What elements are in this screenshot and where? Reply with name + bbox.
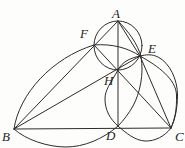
segment-EC <box>140 56 171 128</box>
point-label-B: B <box>2 130 10 143</box>
segment-BE-altitude <box>14 56 140 129</box>
segment-AB <box>14 21 118 129</box>
point-label-E: E <box>148 42 156 55</box>
geometry-diagram: A B C D E F H <box>0 0 185 148</box>
arc-BFEC <box>14 45 177 129</box>
point-label-D: D <box>106 129 115 142</box>
point-label-F: F <box>80 27 88 40</box>
point-label-H: H <box>104 74 113 87</box>
geometry-figure <box>0 0 185 148</box>
segment-AE <box>118 21 140 56</box>
point-label-C: C <box>175 130 184 143</box>
point-label-A: A <box>112 7 120 20</box>
segment-BC <box>14 128 171 129</box>
